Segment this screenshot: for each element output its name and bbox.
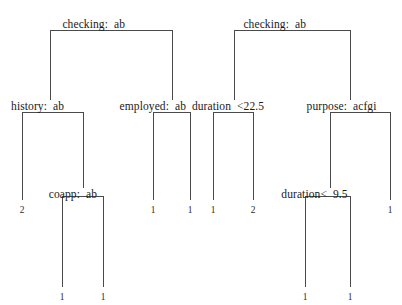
leaf-node[interactable]: 2 bbox=[241, 205, 265, 215]
leaf-node[interactable]: 1 bbox=[91, 292, 115, 302]
node-condition-checking[interactable]: ab bbox=[292, 18, 306, 30]
leaf-node[interactable]: 2 bbox=[10, 205, 34, 215]
leaf-node[interactable]: 1 bbox=[178, 205, 202, 215]
decision-tree-diagram: checking:abchecking:abhistory:abemployed… bbox=[0, 0, 402, 305]
leaf-node[interactable]: 1 bbox=[378, 205, 402, 215]
leaf-node[interactable]: 1 bbox=[201, 205, 225, 215]
node-condition-purpose[interactable]: acfgi bbox=[350, 100, 376, 112]
node-variable-checking[interactable]: checking: bbox=[0, 18, 292, 30]
node-condition-duration[interactable]: 9.5 bbox=[330, 188, 348, 200]
leaf-node[interactable]: 1 bbox=[141, 205, 165, 215]
tree-edges-layer bbox=[0, 0, 402, 305]
node-variable-purpose[interactable]: purpose: bbox=[0, 100, 350, 112]
leaf-node[interactable]: 1 bbox=[338, 292, 362, 302]
leaf-node[interactable]: 1 bbox=[50, 292, 74, 302]
leaf-node[interactable]: 1 bbox=[293, 292, 317, 302]
node-variable-duration[interactable]: duration< bbox=[0, 188, 330, 200]
